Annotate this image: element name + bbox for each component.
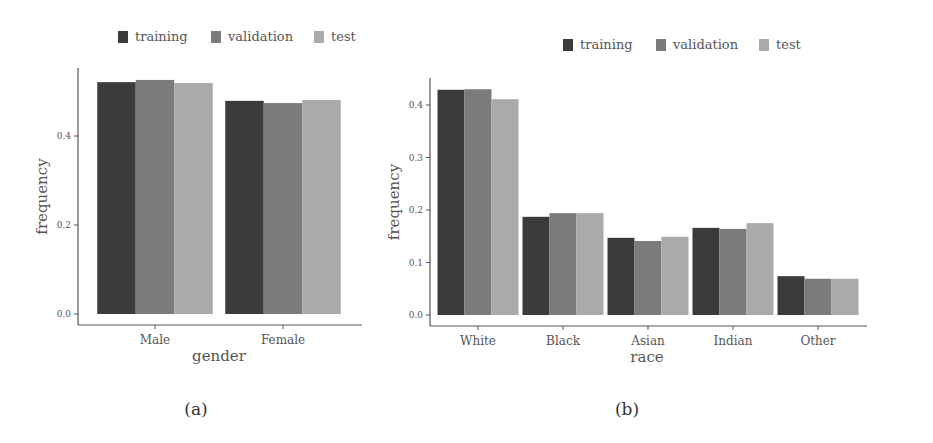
bar-test [577,213,604,315]
bar-validation [635,241,662,315]
y-tick-label: 0.0 [57,309,72,319]
x-tick-label: White [460,334,496,348]
bar-test [747,223,774,315]
bar-group-indian [693,223,774,315]
bar-training [778,276,805,315]
bar-test [832,279,859,315]
bar-validation [805,279,832,315]
legend-label-test: test [776,37,802,52]
bar-training [523,217,550,315]
bar-training [608,238,635,315]
legend-label-training: training [135,29,188,44]
legend-label-test: test [331,29,357,44]
x-tick-label: Black [546,334,581,348]
legend-swatch-validation [211,31,221,43]
legend: trainingvalidationtest [563,37,802,52]
legend-label-validation: validation [672,37,739,52]
y-tick-label: 0.0 [409,310,424,320]
bar-training [438,90,465,315]
chart-b: trainingvalidationtest0.00.10.20.30.4fre… [380,0,933,443]
bar-validation [136,80,175,314]
panel-label: (a) [184,399,207,419]
bar-group-black [523,213,604,315]
legend-swatch-training [563,39,573,51]
chart-a: trainingvalidationtest0.00.20.4frequency… [0,0,380,443]
legend-swatch-test [314,31,324,43]
y-axis-title: frequency [33,158,51,235]
y-tick-label: 0.1 [409,258,423,268]
bar-group-white [438,89,519,315]
y-tick-label: 0.4 [57,131,72,141]
bar-training [225,101,264,314]
chart-a-svg: trainingvalidationtest0.00.20.4frequency… [0,0,380,443]
bar-group-other [778,276,859,315]
legend: trainingvalidationtest [118,29,357,44]
bar-group-male [97,80,213,314]
legend-label-training: training [580,37,633,52]
bar-validation [720,229,747,315]
panel-label: (b) [615,399,639,419]
chart-b-svg: trainingvalidationtest0.00.10.20.30.4fre… [380,0,933,443]
bar-training [97,82,136,314]
legend-swatch-test [759,39,769,51]
legend-swatch-validation [656,39,666,51]
bar-training [693,228,720,315]
bar-validation [264,103,303,314]
bar-test [174,83,213,314]
x-axis-title: gender [192,347,247,365]
x-tick-label: Indian [714,334,753,348]
legend-swatch-training [118,31,128,43]
bar-group-female [225,100,341,314]
x-tick-label: Other [800,334,835,348]
y-tick-label: 0.2 [409,205,423,215]
x-tick-label: Male [140,333,170,347]
y-tick-label: 0.3 [409,153,424,163]
y-tick-label: 0.4 [409,100,424,110]
bar-group-asian [608,237,689,315]
x-axis-title: race [630,348,664,366]
bar-test [662,237,689,315]
x-tick-label: Asian [630,334,665,348]
x-tick-label: Female [261,333,305,347]
bar-validation [550,213,577,315]
bar-validation [465,89,492,315]
legend-label-validation: validation [227,29,294,44]
bar-test [492,99,519,315]
y-axis-title: frequency [385,163,403,240]
y-tick-label: 0.2 [57,220,71,230]
bar-test [302,100,341,314]
